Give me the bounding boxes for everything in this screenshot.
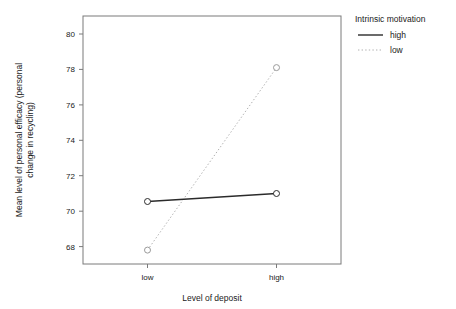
y-tick-label-76: 76	[66, 101, 75, 110]
legend-label-high: high	[390, 30, 406, 40]
y-axis-title-line2: change in recycling)	[25, 102, 35, 178]
legend: Intrinsic motivation high low	[355, 14, 426, 55]
y-tick-label-78: 78	[66, 65, 75, 74]
plot-panel	[83, 16, 341, 264]
y-axis-ticks	[79, 34, 83, 247]
x-tick-label-high: high	[269, 273, 284, 282]
y-tick-label-74: 74	[66, 136, 75, 145]
series-low-point-low	[145, 247, 151, 253]
chart-container: 68 70 72 74 76 78 80 low high Level of d…	[0, 0, 456, 309]
y-tick-label-80: 80	[66, 30, 75, 39]
y-axis-title: Mean level of personal efficacy (persona…	[14, 63, 35, 217]
y-axis-title-line1: Mean level of personal efficacy (persona…	[14, 63, 24, 217]
y-tick-label-70: 70	[66, 207, 75, 216]
x-axis-ticks	[148, 264, 277, 268]
x-tick-label-low: low	[141, 273, 153, 282]
x-axis-title: Level of deposit	[182, 293, 242, 303]
series-high-point-low	[145, 199, 151, 205]
y-tick-label-72: 72	[66, 172, 75, 181]
series-high-point-high	[274, 191, 280, 197]
interaction-plot-svg: 68 70 72 74 76 78 80 low high Level of d…	[0, 0, 456, 309]
y-tick-label-68: 68	[66, 243, 75, 252]
series-low-point-high	[274, 65, 280, 71]
legend-label-low: low	[390, 45, 404, 55]
legend-title: Intrinsic motivation	[355, 14, 426, 24]
